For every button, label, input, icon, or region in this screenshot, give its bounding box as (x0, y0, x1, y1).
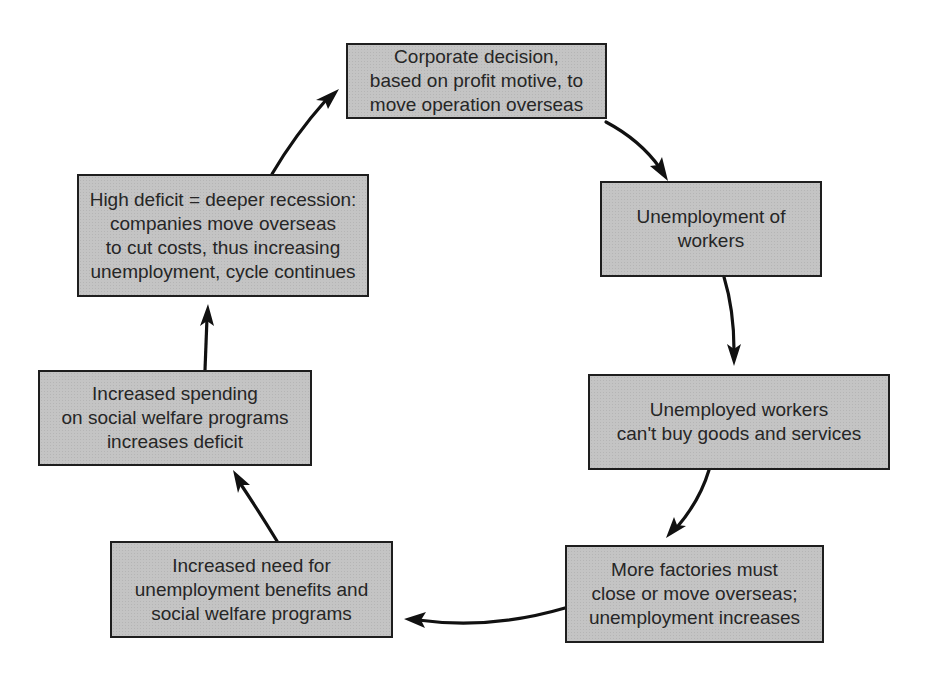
node-text-line: can't buy goods and services (617, 422, 861, 446)
arrow-factories-to-need (404, 608, 565, 628)
node-text-line: companies move overseas (90, 212, 357, 236)
node-text-line: unemployment benefits and (135, 578, 368, 602)
arrow-deficit-to-corporate (272, 89, 339, 174)
arrow-spending-to-deficit (200, 304, 214, 370)
node-text-line: Unemployment of (637, 205, 786, 229)
node-text-line: More factories must (589, 558, 800, 582)
node-text-line: Corporate decision, (370, 45, 583, 69)
node-text-line: Increased need for (135, 554, 368, 578)
node-cant-buy-goods: Unemployed workers can't buy goods and s… (588, 374, 890, 470)
node-text-line: Unemployed workers (617, 398, 861, 422)
node-increased-need-benefits: Increased need for unemployment benefits… (110, 541, 393, 638)
node-text-line: close or move overseas; (589, 582, 800, 606)
cycle-diagram: Corporate decision, based on profit moti… (0, 0, 930, 688)
node-text-line: social welfare programs (135, 602, 368, 626)
arrow-unemployment-to-cantbuy (724, 277, 741, 366)
node-text-line: High deficit = deeper recession: (90, 188, 357, 212)
node-text-line: increases deficit (61, 430, 288, 454)
node-text-line: to cut costs, thus increasing (90, 236, 357, 260)
node-text-line: based on profit motive, to (370, 69, 583, 93)
arrow-corporate-to-unemployment (606, 122, 668, 181)
node-unemployment-of-workers: Unemployment of workers (600, 181, 822, 277)
node-increased-spending: Increased spending on social welfare pro… (38, 370, 312, 466)
arrow-cantbuy-to-factories (666, 470, 709, 538)
arrow-need-to-spending (233, 470, 277, 541)
node-more-factories-close: More factories must close or move overse… (565, 545, 824, 643)
node-corporate-decision: Corporate decision, based on profit moti… (346, 43, 607, 119)
node-text-line: on social welfare programs (61, 406, 288, 430)
node-text-line: unemployment increases (589, 606, 800, 630)
node-text-line: Increased spending (61, 382, 288, 406)
node-text-line: unemployment, cycle continues (90, 260, 357, 284)
node-high-deficit: High deficit = deeper recession: compani… (77, 174, 369, 297)
node-text-line: move operation overseas (370, 93, 583, 117)
node-text-line: workers (637, 229, 786, 253)
